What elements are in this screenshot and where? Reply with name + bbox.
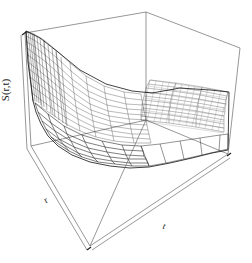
perspective-surface-canvas (0, 0, 252, 263)
z-axis-label: S(r,t) (0, 79, 11, 101)
surface-outline (26, 31, 229, 168)
surface-plot-figure: S(r,t) r t (0, 0, 252, 263)
surface-plateau-mesh (141, 80, 228, 132)
surface-transition-band (141, 134, 228, 166)
surface-valley-mesh (35, 103, 149, 166)
